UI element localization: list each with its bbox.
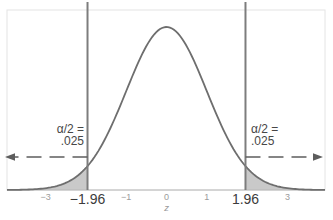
x-axis-label: z (164, 202, 169, 213)
right-arrowhead-icon (313, 153, 323, 161)
x-tick-neg1: −1 (121, 192, 131, 202)
normal-distribution-figure: α/2 = .025 α/2 = .025 −3 −1.96 −1 0 1 1.… (0, 0, 333, 220)
x-tick-neg1-96: −1.96 (70, 191, 105, 207)
x-tick-neg3: −3 (40, 192, 50, 202)
left-tail-annotation: α/2 = .025 (57, 124, 84, 147)
plot-frame (7, 10, 325, 190)
x-tick-1-96: 1.96 (232, 191, 259, 207)
right-tail-annotation: α/2 = .025 (251, 124, 278, 147)
x-tick-0: 0 (164, 192, 169, 202)
right-tail-annotation-line2: .025 (251, 136, 278, 148)
x-tick-1: 1 (204, 192, 209, 202)
x-tick-3: 3 (285, 192, 290, 202)
left-tail-annotation-line2: .025 (57, 136, 84, 148)
distribution-plot-canvas (0, 0, 333, 220)
normal-curve (7, 27, 325, 190)
